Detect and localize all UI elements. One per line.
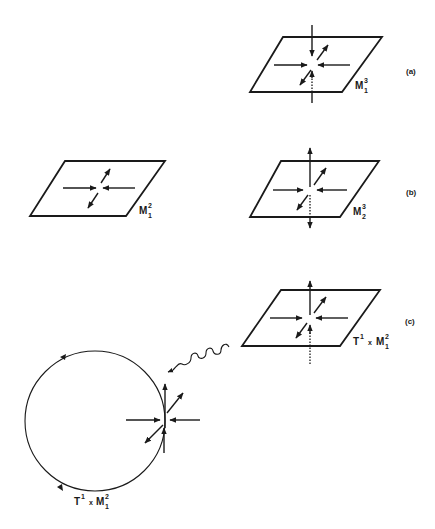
panel-b-left: M 2 1 [30,161,165,219]
sub-c: 1 [385,343,389,350]
sink-vectors [63,169,135,208]
orbit-prefix-sup: 1 [81,493,85,500]
manifold-label-b: M [353,206,361,217]
orbit-direction-arrow-bottom [57,484,63,491]
sup-a: 3 [364,77,368,84]
sup-c: 2 [385,333,389,340]
sub-b: 2 [362,213,366,220]
sup-b-left: 2 [148,202,152,209]
periodic-orbit: T 1 x M 2 1 [25,351,200,510]
orbit-times: x [89,499,93,506]
manifold-label-b-left: M [139,205,147,216]
panel-c: T 1 x M 2 1 (c) [242,281,415,364]
saddle-vectors [270,281,348,364]
orbit-prefix: T [74,496,80,507]
panel-label-b: (b) [406,188,417,197]
orbit-circle [25,351,165,491]
dynamical-systems-diagram: M 3 1 (a) M 2 1 M 3 2 (b) [0,0,435,529]
orbit-sup: 2 [105,493,109,500]
sup-b: 3 [362,203,366,210]
panel-label-c: (c) [405,317,415,326]
orbit-manifold: M [96,496,104,507]
panel-a: M 3 1 (a) [250,25,416,103]
prefix-sup-c: 1 [360,333,364,340]
sub-b-left: 1 [148,212,152,219]
saddle-on-orbit [126,384,200,453]
manifold-m-c: M [376,336,384,347]
panel-b: M 3 2 (b) [250,148,417,228]
manifold-label-a: M [355,80,363,91]
saddle-vectors [273,148,347,228]
times-c: x [368,339,372,346]
manifold-label-c: T [353,336,359,347]
wavy-connector [168,344,229,372]
sub-a: 1 [364,87,368,94]
orbit-sub: 1 [105,503,109,510]
panel-label-a: (a) [406,67,416,76]
